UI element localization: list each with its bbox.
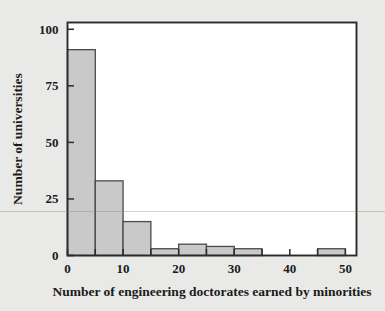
y-axis-tick-label: 75 xyxy=(46,78,60,93)
x-axis-tick-label: 50 xyxy=(339,261,352,276)
x-axis-title: Number of engineering doctorates earned … xyxy=(52,284,371,299)
histogram-bar xyxy=(234,249,262,256)
x-axis-tick-label: 40 xyxy=(283,261,296,276)
histogram-bar xyxy=(206,246,234,255)
histogram-bar xyxy=(318,249,346,256)
x-axis-tick-label: 30 xyxy=(228,261,241,276)
histogram-bar xyxy=(68,50,96,256)
histogram-chart: 010203040500255075100Number of engineeri… xyxy=(0,0,385,311)
y-axis-tick-label: 100 xyxy=(39,22,59,37)
histogram-figure: 010203040500255075100Number of engineeri… xyxy=(0,0,385,311)
x-axis-tick-label: 0 xyxy=(64,261,71,276)
x-axis-tick-label: 20 xyxy=(172,261,185,276)
x-axis-tick-label: 10 xyxy=(117,261,130,276)
y-axis-tick-label: 25 xyxy=(46,191,60,206)
histogram-bar xyxy=(123,222,151,256)
histogram-bar xyxy=(151,249,179,256)
y-axis-title: Number of universities xyxy=(10,73,25,205)
y-axis-tick-label: 50 xyxy=(46,135,59,150)
y-axis-tick-label: 0 xyxy=(52,248,59,263)
histogram-bar xyxy=(95,181,123,256)
histogram-bar xyxy=(179,244,207,255)
